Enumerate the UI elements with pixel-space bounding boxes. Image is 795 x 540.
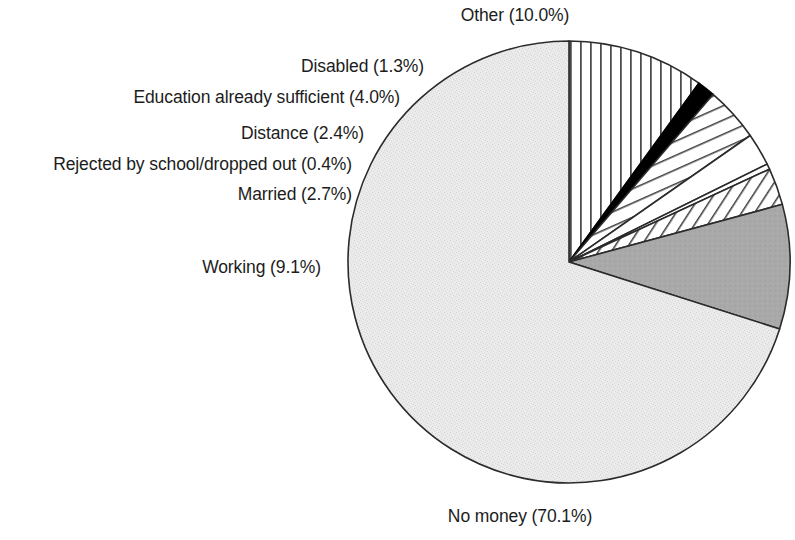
slice-label-working: Working (9.1%) — [8, 258, 321, 277]
slice-label-distance: Distance (2.4%) — [8, 124, 364, 143]
pie-chart-figure: Other (10.0%) Disabled (1.3%) Education … — [0, 0, 795, 540]
slice-label-no-money: No money (70.1%) — [420, 507, 620, 526]
slice-label-disabled: Disabled (1.3%) — [8, 57, 424, 76]
slice-label-other: Other (10.0%) — [415, 6, 615, 25]
slice-label-rejected: Rejected by school/dropped out (0.4%) — [4, 155, 352, 174]
slice-label-education: Education already sufficient (4.0%) — [8, 88, 400, 107]
slice-label-married: Married (2.7%) — [8, 185, 352, 204]
pie-slice-group — [348, 41, 790, 483]
